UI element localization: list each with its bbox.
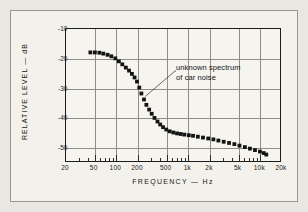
figure-page: RELATIVE LEVEL — dB FREQUENCY — Hz unkno… xyxy=(0,0,308,212)
data-point-marker xyxy=(264,153,268,157)
data-point-marker xyxy=(109,54,113,58)
data-point-marker xyxy=(106,53,110,57)
data-point-marker xyxy=(232,142,236,146)
y-tick-label: -50 xyxy=(58,144,67,151)
data-point-marker xyxy=(168,129,172,133)
data-point-marker xyxy=(93,51,97,55)
x-tick-label: 100 xyxy=(110,164,121,171)
data-point-marker xyxy=(243,145,247,149)
data-point-marker xyxy=(147,108,151,112)
data-point-marker xyxy=(113,56,117,60)
data-point-marker xyxy=(97,51,101,55)
x-tick-label: 1k xyxy=(184,164,191,171)
data-point-marker xyxy=(127,69,131,73)
data-point-marker xyxy=(253,148,257,152)
data-point-marker xyxy=(142,98,146,102)
data-point-marker xyxy=(120,62,124,66)
data-point-marker xyxy=(191,134,195,138)
data-point-marker xyxy=(150,112,154,116)
x-tick-label: 10k xyxy=(254,164,265,171)
x-tick-label: 20 xyxy=(61,164,69,171)
data-point-marker xyxy=(130,72,134,76)
y-tick-label: -10 xyxy=(58,25,67,32)
data-point-marker xyxy=(216,139,220,143)
data-point-marker xyxy=(88,51,92,55)
data-point-marker xyxy=(238,144,242,148)
data-layer xyxy=(0,0,308,212)
data-point-marker xyxy=(211,137,215,141)
data-point-marker xyxy=(164,128,168,132)
x-tick-label: 500 xyxy=(160,164,171,171)
data-point-marker xyxy=(171,131,175,135)
data-point-marker xyxy=(201,136,205,140)
data-point-marker xyxy=(248,147,252,151)
annotation-leader-line xyxy=(145,71,176,97)
data-point-marker xyxy=(182,133,186,137)
x-tick-label: 20k xyxy=(275,164,286,171)
data-point-marker xyxy=(144,103,148,107)
x-tick-label: 200 xyxy=(131,164,142,171)
data-point-marker xyxy=(175,132,179,136)
data-point-marker xyxy=(222,140,226,144)
data-point-marker xyxy=(187,133,191,137)
x-tick-label: 50 xyxy=(90,164,98,171)
data-point-marker xyxy=(135,80,139,84)
y-tick-label: -40 xyxy=(58,114,67,121)
data-point-marker xyxy=(139,92,143,96)
data-point-marker xyxy=(179,132,183,136)
data-point-marker xyxy=(137,86,141,90)
x-tick-label: 5k xyxy=(234,164,241,171)
data-point-marker xyxy=(153,116,157,120)
data-point-marker xyxy=(196,135,200,139)
data-point-marker xyxy=(258,150,262,154)
x-tick-label: 2k xyxy=(205,164,212,171)
y-tick-label: -30 xyxy=(58,84,67,91)
data-point-marker xyxy=(117,59,121,63)
data-point-marker xyxy=(206,137,210,141)
y-tick-label: -20 xyxy=(58,54,67,61)
data-point-marker xyxy=(133,76,137,80)
data-point-marker xyxy=(227,141,231,145)
data-point-marker xyxy=(101,52,105,56)
